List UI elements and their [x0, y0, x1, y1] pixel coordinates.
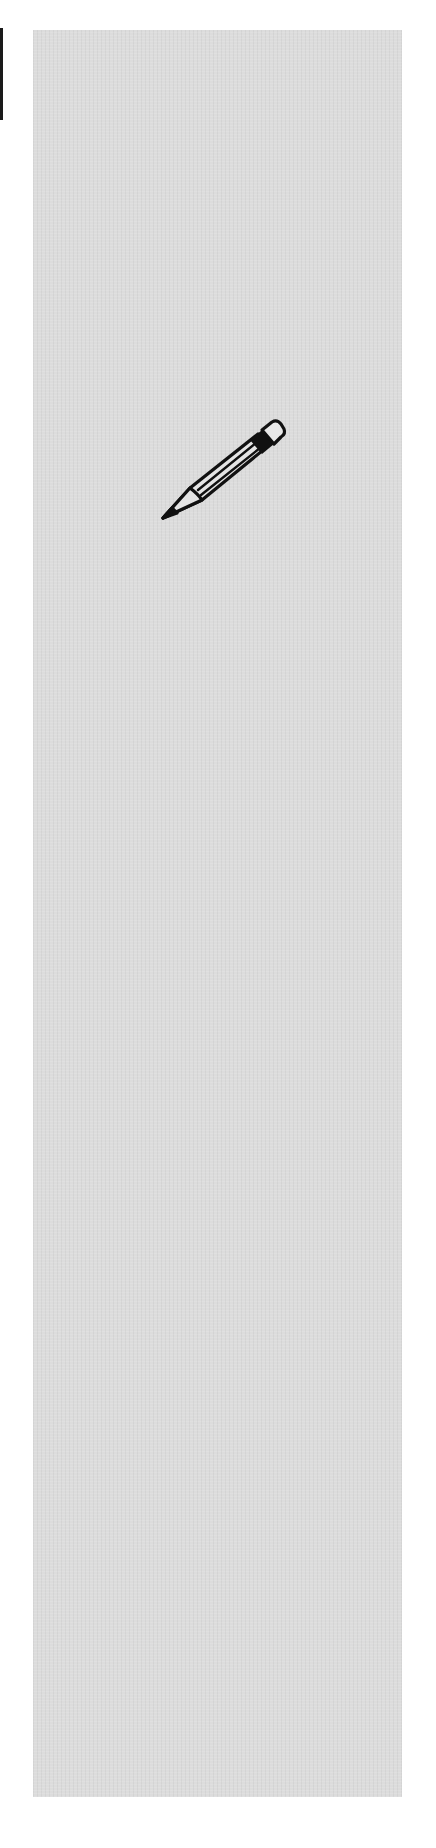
pencil-icon	[150, 410, 290, 530]
page-edge-bar	[0, 28, 3, 120]
gray-blank-panel	[33, 30, 402, 1797]
